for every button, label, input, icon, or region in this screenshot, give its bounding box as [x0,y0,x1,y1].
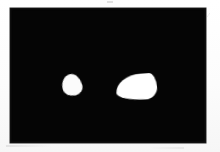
bright-object-left [60,72,85,98]
plate-edge-bleed [10,8,206,143]
bright-object-right [115,73,158,102]
scanned-page: ⁄ [0,0,220,152]
scan-artifact-right-margin: ⁄ [208,12,209,18]
scan-artifact-bottom-right [150,147,184,149]
scan-artifact-bottom-left [6,145,52,147]
dark-field-image-plate [10,8,206,143]
scan-artifact-top-edge [107,1,113,3]
